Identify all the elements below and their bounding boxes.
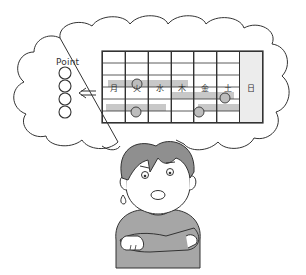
day-fri: 金: [194, 52, 217, 123]
day-thu: 木: [171, 52, 194, 123]
day-sat: 土: [217, 52, 240, 123]
day-mon: 月: [103, 52, 126, 123]
point-label: Point: [56, 57, 79, 67]
day-sun: 日: [240, 52, 263, 123]
day-wed: 水: [148, 52, 171, 123]
illustration: Point 月 火 水 木 金 土 日: [0, 0, 306, 275]
weekly-schedule: 月 火 水 木 金 土 日: [102, 51, 263, 123]
day-tue: 火: [125, 52, 148, 123]
worried-person: [116, 142, 200, 268]
